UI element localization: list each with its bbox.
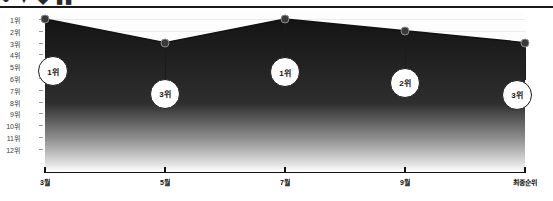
y-axis-tick-label: 1위 bbox=[10, 15, 20, 25]
data-point-marker[interactable] bbox=[281, 15, 290, 24]
y-axis-tick-label: 5위 bbox=[10, 62, 20, 72]
y-axis-tick-label: 8위 bbox=[10, 98, 20, 108]
callout-leader-line bbox=[165, 43, 166, 79]
data-point-marker[interactable] bbox=[41, 15, 50, 24]
data-point-callout[interactable]: 3위 bbox=[150, 79, 180, 109]
header-divider bbox=[0, 6, 553, 8]
y-axis-tick-label: 4위 bbox=[10, 50, 20, 60]
data-point-marker[interactable] bbox=[161, 38, 170, 47]
y-axis-tick-mark bbox=[39, 149, 43, 150]
y-axis-tick-label: 11위 bbox=[7, 133, 20, 143]
y-axis-tick-label: 6위 bbox=[10, 74, 20, 84]
y-axis-tick-mark bbox=[39, 31, 43, 32]
y-axis-tick-mark bbox=[39, 102, 43, 103]
x-axis-tick-mark bbox=[284, 167, 286, 173]
y-axis-tick-label: 12위 bbox=[6, 145, 20, 155]
x-axis-tick-mark bbox=[164, 167, 166, 173]
data-point-callout[interactable]: 2위 bbox=[390, 68, 420, 98]
x-axis-tick-mark bbox=[404, 167, 406, 173]
y-axis-tick-mark bbox=[39, 113, 43, 114]
callout-leader-line bbox=[405, 31, 406, 68]
x-axis-tick-label: 최종순위 bbox=[513, 177, 537, 187]
x-axis-tick-label: 7월 bbox=[280, 177, 290, 187]
y-axis-tick-mark bbox=[39, 125, 43, 126]
y-axis-tick-label: 7위 bbox=[10, 86, 20, 96]
data-point-marker[interactable] bbox=[401, 26, 410, 35]
y-axis-tick-label: 3위 bbox=[10, 39, 20, 49]
data-point-callout[interactable]: 1위 bbox=[270, 57, 300, 87]
y-axis-tick-label: 10위 bbox=[6, 121, 20, 131]
x-axis-tick-label: 5월 bbox=[160, 177, 170, 187]
x-axis-tick-label: 9월 bbox=[400, 177, 410, 187]
y-axis-tick-mark bbox=[39, 137, 43, 138]
y-axis-tick-mark bbox=[39, 43, 43, 44]
data-point-callout[interactable]: 3위 bbox=[502, 80, 532, 110]
callout-leader-line bbox=[285, 19, 286, 57]
x-axis-tick-label: 3월 bbox=[40, 177, 50, 187]
x-axis-tick-mark bbox=[524, 167, 526, 173]
y-axis-tick-mark bbox=[39, 54, 43, 55]
y-axis-tick-label: 9위 bbox=[10, 109, 20, 119]
y-axis-tick-label: 2위 bbox=[10, 27, 20, 37]
y-axis-tick-mark bbox=[39, 90, 43, 91]
data-point-callout[interactable]: 1위 bbox=[38, 56, 68, 86]
chart-screenshot: ● ▼ ◆ ▮▮ 1위2위3위4위5위6위7위8위9위10위11위12위 3월5… bbox=[0, 0, 553, 201]
x-axis-tick-mark bbox=[44, 167, 46, 173]
data-point-marker[interactable] bbox=[521, 38, 530, 47]
callout-leader-line bbox=[525, 43, 526, 80]
callout-leader-line bbox=[45, 19, 46, 56]
